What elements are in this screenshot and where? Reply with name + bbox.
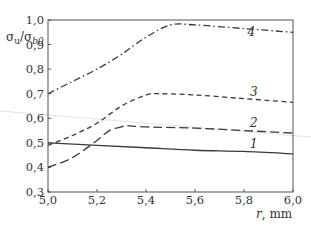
curve-label-1: 1 <box>250 137 258 151</box>
y-tick-label: 1,0 <box>26 13 44 27</box>
x-tick-label: 6,0 <box>284 193 302 207</box>
x-tick-label: 5,2 <box>88 193 106 207</box>
y-tick-label: 0,8 <box>26 62 44 76</box>
plot-frame <box>48 20 293 192</box>
curve-label-4: 4 <box>247 25 256 39</box>
scan-artifact-line <box>0 111 311 137</box>
x-axis-title: r, mm <box>256 207 293 221</box>
x-tick-label: 5,0 <box>39 193 57 207</box>
curve-label-3: 3 <box>250 85 258 99</box>
x-tick-label: 5,8 <box>235 193 253 207</box>
y-tick-label: 0,5 <box>26 136 44 150</box>
series-line-4 <box>48 24 293 94</box>
y-tick-label: 0,6 <box>26 111 44 125</box>
curve-label-2: 2 <box>249 116 258 130</box>
line-chart: 0,30,40,50,60,70,80,91,0 5,05,25,45,65,8… <box>0 0 311 231</box>
y-axis-title: σu/σb0 <box>6 30 44 46</box>
x-tick-label: 5,6 <box>186 193 204 207</box>
y-tick-label: 0,7 <box>26 87 44 101</box>
y-tick-label: 0,4 <box>26 160 44 174</box>
x-tick-label: 5,4 <box>137 193 155 207</box>
